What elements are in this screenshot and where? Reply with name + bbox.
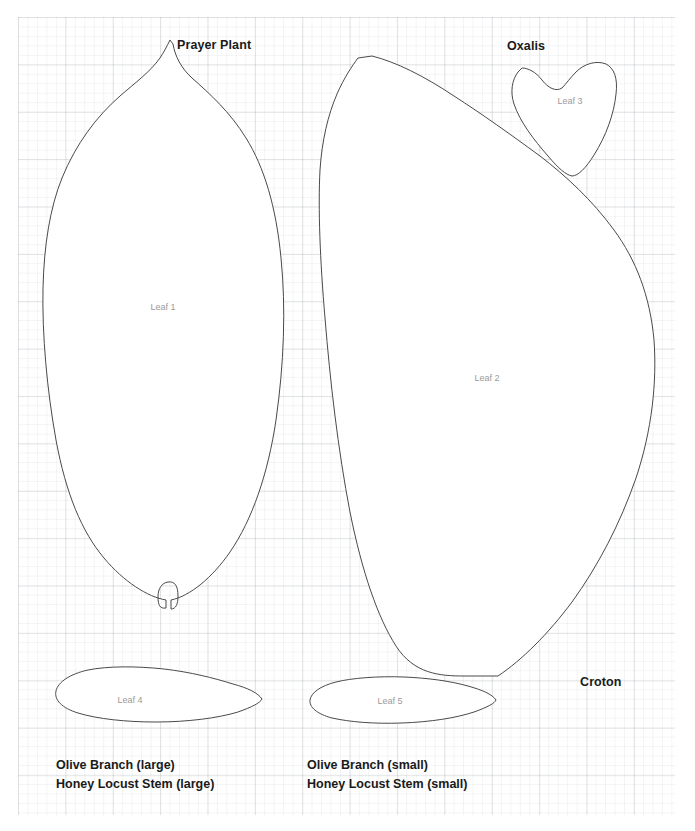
caption-large-line-1: Olive Branch (large) — [56, 756, 214, 775]
leaf-label-4: Leaf 4 — [117, 695, 142, 705]
leaf-4-outline[interactable] — [56, 667, 262, 722]
leaf-template-page: Prayer Plant Oxalis Croton Leaf 1 Leaf 2… — [0, 0, 695, 831]
leaf-1-outline[interactable] — [43, 40, 284, 609]
caption-large: Olive Branch (large) Honey Locust Stem (… — [56, 756, 214, 794]
leaf-label-2: Leaf 2 — [474, 373, 499, 383]
leaf-outlines-svg — [0, 0, 695, 831]
leaf-label-5: Leaf 5 — [377, 696, 402, 706]
caption-small-line-2: Honey Locust Stem (small) — [307, 775, 467, 794]
caption-large-line-2: Honey Locust Stem (large) — [56, 775, 214, 794]
leaf-5-outline[interactable] — [310, 677, 496, 724]
leaf-label-1: Leaf 1 — [150, 302, 175, 312]
plant-label-prayer-plant: Prayer Plant — [177, 38, 251, 52]
caption-small: Olive Branch (small) Honey Locust Stem (… — [307, 756, 467, 794]
caption-small-line-1: Olive Branch (small) — [307, 756, 467, 775]
plant-label-croton: Croton — [580, 675, 622, 689]
leaf-2-outline[interactable] — [319, 56, 655, 676]
leaf-label-3: Leaf 3 — [557, 96, 582, 106]
plant-label-oxalis: Oxalis — [507, 39, 545, 53]
